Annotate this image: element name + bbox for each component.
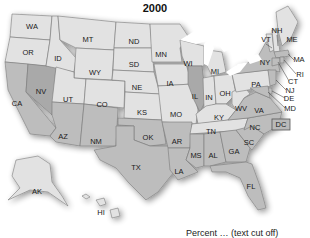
state-label: NY: [260, 58, 270, 67]
state-label: NC: [250, 123, 261, 132]
state-label: CO: [96, 100, 107, 109]
state-label: KS: [137, 108, 147, 117]
state-label: WI: [183, 59, 192, 68]
state-label: IL: [192, 92, 198, 101]
state-label: KY: [214, 113, 224, 122]
state-label: HI: [97, 208, 105, 217]
state-label: OK: [143, 133, 154, 142]
state-label: UT: [63, 95, 73, 104]
state-label: DC: [276, 120, 287, 129]
state-label: ME: [286, 35, 297, 44]
state-label: AZ: [58, 132, 68, 141]
state-label: AR: [172, 137, 183, 146]
state-label: IA: [166, 79, 173, 88]
state-label: ID: [54, 54, 62, 63]
state-label: MO: [170, 110, 182, 119]
state-label: FL: [247, 182, 256, 191]
state-label: AK: [32, 187, 42, 196]
state-label: MN: [155, 50, 167, 59]
state-label: VA: [254, 106, 263, 115]
state-label: MI: [211, 67, 219, 76]
state-label: GA: [229, 147, 240, 156]
state-label: ND: [129, 37, 140, 46]
map-caption: Percent … (text cut off): [186, 228, 278, 238]
state-label: PA: [251, 80, 260, 89]
state-label: MD: [284, 104, 296, 113]
state-label: SC: [244, 138, 255, 147]
state-fl: [210, 162, 266, 210]
state-label: OR: [22, 48, 34, 57]
state-ri: [280, 57, 284, 63]
state-label: NH: [272, 26, 283, 35]
state-label: AL: [208, 151, 217, 160]
state-label: LA: [174, 167, 183, 176]
state-label: DE: [284, 94, 294, 103]
state-label: OH: [219, 89, 230, 98]
state-label: MS: [190, 151, 201, 160]
state-label: TN: [206, 127, 216, 136]
state-label: IN: [205, 93, 213, 102]
state-label: WA: [26, 22, 38, 31]
state-label: NE: [132, 83, 142, 92]
state-label: WY: [89, 68, 101, 77]
state-label: WV: [235, 104, 247, 113]
state-label: TX: [131, 163, 141, 172]
state-label: MA: [293, 55, 304, 64]
state-ak: [8, 156, 68, 206]
state-label: NM: [90, 137, 102, 146]
state-label: SD: [129, 60, 140, 69]
state-label: CT: [288, 77, 298, 86]
us-map: WA OR CA NV ID MT WY UT CO AZ NM ND SD N…: [0, 0, 310, 238]
state-label: NV: [36, 87, 46, 96]
state-mt: [58, 16, 116, 50]
state-label: CA: [12, 99, 22, 108]
state-label: VT: [261, 35, 271, 44]
state-label: MT: [83, 35, 94, 44]
